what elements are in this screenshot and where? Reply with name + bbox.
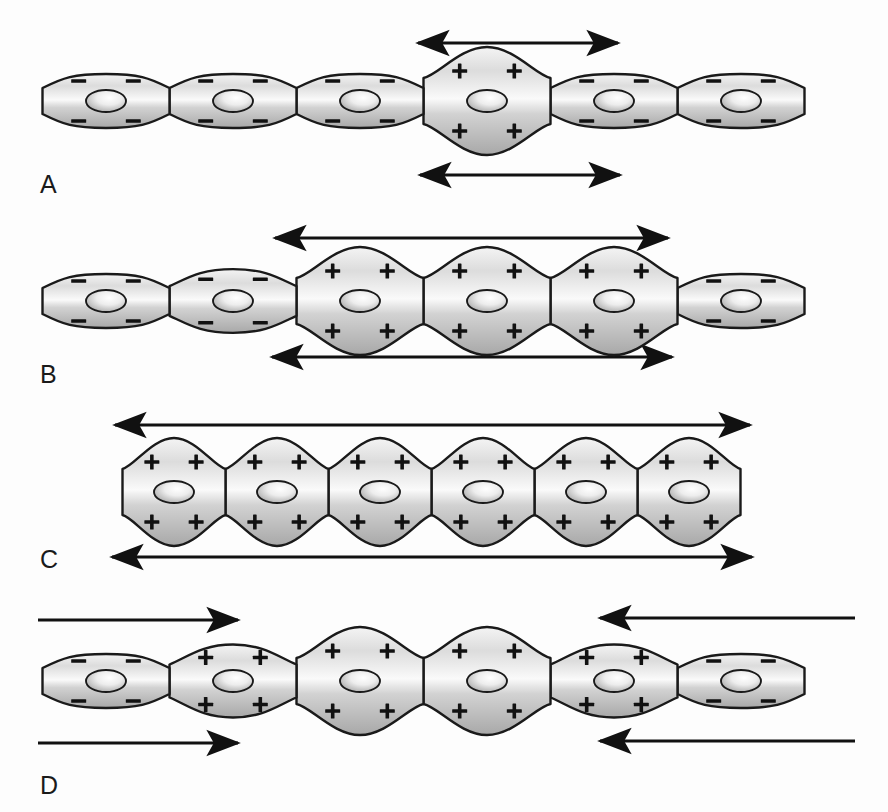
minus-sign-bar [253, 321, 268, 325]
plus-sign-bar [606, 455, 610, 470]
plus-sign-bar [331, 704, 335, 719]
cell-nucleus [86, 670, 126, 692]
plus-sign-bar [640, 697, 644, 712]
panel-a [43, 43, 805, 175]
cell-nucleus [721, 670, 761, 692]
cell-nucleus [467, 90, 507, 112]
minus-sign-bar [71, 79, 86, 83]
plus-sign-bar [585, 324, 589, 339]
panel-d [38, 618, 855, 743]
plus-sign-bar [709, 515, 713, 530]
plus-sign-bar [640, 650, 644, 665]
plus-sign-bar [400, 455, 404, 470]
cell-b-1 [43, 274, 170, 328]
panel-label-a: A [40, 172, 57, 197]
minus-sign-bar [253, 119, 268, 123]
minus-sign-bar [380, 119, 395, 123]
cell-nucleus [721, 290, 761, 312]
minus-sign-bar [198, 119, 213, 123]
plus-sign-bar [297, 515, 301, 530]
cell-a-5 [551, 74, 678, 128]
cell-a-2 [170, 74, 297, 128]
plus-sign-bar [150, 515, 154, 530]
cell-b-4 [424, 247, 551, 355]
minus-sign-bar [126, 119, 141, 123]
cell-nucleus [257, 481, 297, 503]
plus-sign-bar [513, 644, 517, 659]
minus-sign-bar [71, 119, 86, 123]
plus-sign-bar [513, 704, 517, 719]
cell-nucleus [669, 481, 709, 503]
minus-sign-bar [71, 659, 86, 663]
minus-sign-bar [126, 659, 141, 663]
panel-label-b: B [40, 362, 57, 387]
cell-nucleus [340, 90, 380, 112]
cell-nucleus [86, 290, 126, 312]
minus-sign-bar [706, 79, 721, 83]
cell-b-3 [297, 247, 424, 355]
minus-sign-bar [706, 659, 721, 663]
cell-nucleus [213, 90, 253, 112]
cell-nucleus [340, 670, 380, 692]
minus-sign-bar [380, 79, 395, 83]
plus-sign-bar [259, 650, 263, 665]
plus-sign-bar [331, 324, 335, 339]
plus-sign-bar [253, 515, 257, 530]
plus-sign-bar [585, 264, 589, 279]
plus-sign-bar [204, 650, 208, 665]
cell-c-3 [329, 438, 432, 546]
cell-a-4 [424, 47, 551, 155]
plus-sign-bar [513, 124, 517, 139]
plus-sign-bar [386, 644, 390, 659]
plus-sign-bar [204, 697, 208, 712]
plus-sign-bar [640, 324, 644, 339]
plus-sign-bar [665, 515, 669, 530]
cell-c-6 [638, 438, 741, 546]
minus-sign-bar [71, 279, 86, 283]
cell-b-6 [678, 274, 805, 328]
plus-sign-bar [386, 704, 390, 719]
plus-sign-bar [297, 455, 301, 470]
minus-sign-bar [325, 119, 340, 123]
minus-sign-bar [706, 119, 721, 123]
minus-sign-bar [634, 79, 649, 83]
plus-sign-bar [640, 264, 644, 279]
minus-sign-bar [761, 79, 776, 83]
cell-nucleus [594, 290, 634, 312]
minus-sign-bar [126, 79, 141, 83]
minus-sign-bar [71, 319, 86, 323]
minus-sign-bar [579, 79, 594, 83]
cell-a-3 [297, 74, 424, 128]
cell-nucleus [340, 290, 380, 312]
plus-sign-bar [458, 324, 462, 339]
cell-c-1 [123, 438, 226, 546]
minus-sign-bar [706, 699, 721, 703]
plus-sign-bar [665, 455, 669, 470]
cell-a-1 [43, 74, 170, 128]
minus-sign-bar [253, 277, 268, 281]
plus-sign-bar [386, 324, 390, 339]
minus-sign-bar [706, 319, 721, 323]
cell-d-4 [424, 627, 551, 735]
plus-sign-bar [150, 455, 154, 470]
plus-sign-bar [513, 324, 517, 339]
plus-sign-bar [459, 455, 463, 470]
minus-sign-bar [634, 119, 649, 123]
minus-sign-bar [761, 659, 776, 663]
minus-sign-bar [71, 699, 86, 703]
minus-sign-bar [198, 321, 213, 325]
cell-nucleus [360, 481, 400, 503]
cell-c-4 [432, 438, 535, 546]
plus-sign-bar [585, 697, 589, 712]
plus-sign-bar [513, 264, 517, 279]
minus-sign-bar [126, 319, 141, 323]
minus-sign-bar [198, 79, 213, 83]
plus-sign-bar [356, 515, 360, 530]
cell-a-6 [678, 74, 805, 128]
plus-sign-bar [562, 515, 566, 530]
minus-sign-bar [706, 279, 721, 283]
minus-sign-bar [761, 319, 776, 323]
plus-sign-bar [194, 455, 198, 470]
cell-d-5 [551, 645, 678, 718]
cell-nucleus [467, 290, 507, 312]
